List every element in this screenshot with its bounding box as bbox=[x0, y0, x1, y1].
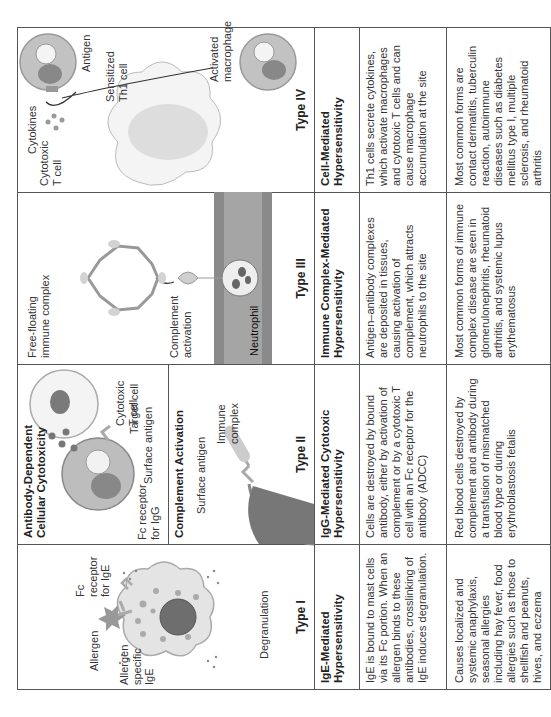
degranulation-label: Degranulation bbox=[258, 591, 271, 660]
immune-complex-label: Immune complex bbox=[215, 394, 240, 444]
complement-activation-title: Complement Activation bbox=[173, 410, 186, 538]
type2-examples: Red blood cells destroyed by complement … bbox=[447, 365, 551, 545]
name-row: IgE-Mediated Hypersensitivity IgG-Mediat… bbox=[315, 28, 360, 690]
antigen-label: Antigen bbox=[80, 35, 93, 72]
figure-row: Allergen Allergen specific IgE Fc recept… bbox=[18, 28, 315, 690]
adcc-title: Antibody-Dependent Cellular Cytotoxicity bbox=[22, 388, 47, 538]
free-floating-immune-complex-label: Free-floating immune complex bbox=[26, 268, 51, 358]
type1-figure-cell: Allergen Allergen specific IgE Fc recept… bbox=[18, 545, 315, 690]
type4-mechanism: Th1 cells secrete cytokines, which activ… bbox=[360, 28, 447, 193]
type2-figure-cell: Antibody-Dependent Cellular Cytotoxicity… bbox=[18, 365, 315, 545]
type1-mechanism: IgE is bound to mast cells via its Fc po… bbox=[360, 545, 447, 690]
type4-label: Type IV bbox=[294, 28, 308, 192]
fc-receptor-ige-label: Fc receptor for IgE bbox=[74, 547, 112, 597]
target-cell-label: Target cell bbox=[128, 384, 141, 434]
type2-label: Type II bbox=[294, 365, 308, 544]
type2-name: IgG-Mediated Cytotoxic Hypersensitivity bbox=[315, 365, 360, 545]
allergen-label: Allergen bbox=[88, 631, 101, 671]
immune-complex-illustration bbox=[18, 192, 314, 364]
allergen-specific-ige-label: Allergen specific IgE bbox=[118, 645, 156, 685]
type4-figure-cell: Antigen Sensitized Th1 cell Cytokines Cy… bbox=[18, 28, 315, 193]
type3-name: Immune Complex-Mediated Hypersensitivity bbox=[315, 193, 360, 365]
adcc-panel: Antibody-Dependent Cellular Cytotoxicity… bbox=[18, 365, 169, 544]
complement-illustration bbox=[169, 364, 314, 544]
hypersensitivity-table-rotated: Allergen Allergen specific IgE Fc recept… bbox=[17, 28, 509, 690]
hypersensitivity-table: Allergen Allergen specific IgE Fc recept… bbox=[17, 27, 551, 690]
type3-figure-cell: Free-floating immune complex Complement … bbox=[18, 193, 315, 365]
activated-macrophage-label: Activated macrophage bbox=[208, 22, 233, 82]
complement-panel: Complement Activation Surface antigen Im… bbox=[169, 365, 314, 544]
examples-row: Causes localized and systemic anaphylaxi… bbox=[447, 28, 551, 690]
type1-examples: Causes localized and systemic anaphylaxi… bbox=[447, 545, 551, 690]
complement-activation-label: Complement activation bbox=[168, 288, 193, 358]
sensitized-th1-cell-label: Sensitized Th1 cell bbox=[104, 32, 129, 102]
surface-antigen-label: Surface antigen bbox=[142, 407, 155, 484]
type1-name: IgE-Mediated Hypersensitivity bbox=[315, 545, 360, 690]
type3-mechanism: Antigen–antibody complexes are deposited… bbox=[360, 193, 447, 365]
cytokines-label: Cytokines bbox=[26, 106, 39, 154]
type4-name: Cell-Mediated Hypersensitivity bbox=[315, 28, 360, 193]
mechanism-row: IgE is bound to mast cells via its Fc po… bbox=[360, 28, 447, 690]
type4-examples: Most common forms are contact dermatitis… bbox=[447, 28, 551, 193]
type3-examples: Most common forms of immune complex dise… bbox=[447, 193, 551, 365]
neutrophil-label: Neutrophil bbox=[248, 306, 261, 356]
type3-label: Type III bbox=[294, 193, 308, 364]
fc-receptor-igg-label: Fc receptor for IgG bbox=[136, 480, 161, 540]
cytotoxic-t-cell-label-4: Cytotoxic T cell bbox=[38, 136, 63, 186]
type1-label: Type I bbox=[294, 545, 308, 689]
surface-antigen-2-label: Surface antigen bbox=[195, 437, 208, 514]
type2-mechanism: Cells are destroyed by bound antibody, e… bbox=[360, 365, 447, 545]
